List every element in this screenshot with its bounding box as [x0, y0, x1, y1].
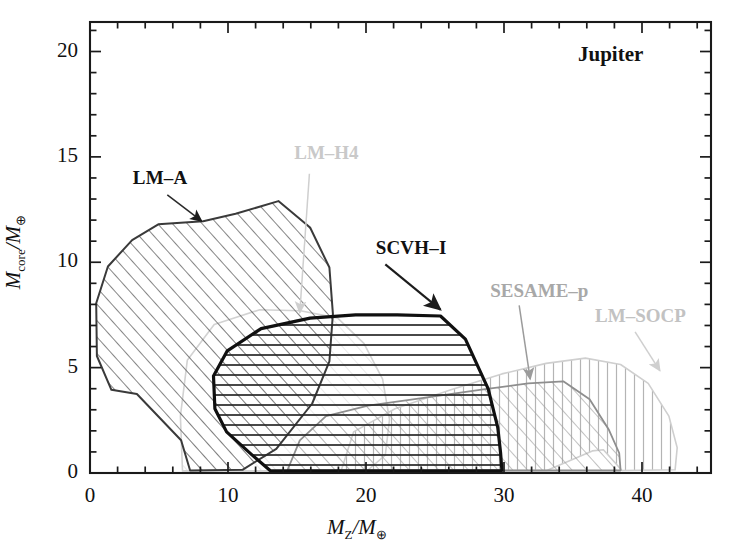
x-tick-label-10: 10: [198, 483, 258, 508]
y-tick-label-15: 15: [22, 143, 78, 168]
region-scvh-i: [214, 315, 502, 471]
arrow-lm-socp: [635, 332, 660, 371]
corner-label-jupiter: Jupiter: [578, 42, 643, 67]
x-tick-label-20: 20: [336, 483, 396, 508]
arrow-lm-a: [167, 195, 202, 221]
y-tick-label-10: 10: [22, 248, 78, 273]
series-label-lm-socp: LM–SOCP: [595, 305, 686, 327]
x-axis-title: MZ/M⊕: [327, 515, 387, 543]
series-label-lm-a: LM–A: [133, 167, 188, 189]
y-tick-label-20: 20: [22, 38, 78, 63]
figure-root: 01020304005101520 LM–ALM–H4SCVH–ISESAME–…: [0, 0, 735, 557]
chart-canvas: [0, 0, 735, 557]
x-tick-label-40: 40: [612, 483, 672, 508]
y-axis-title: Mcore/M⊕: [1, 215, 29, 289]
series-label-sesame-p: SESAME–p: [490, 280, 588, 302]
series-label-scvh-i: SCVH–I: [376, 237, 447, 259]
y-tick-label-5: 5: [22, 354, 78, 379]
arrow-scvh-i: [385, 264, 440, 309]
x-tick-label-30: 30: [474, 483, 534, 508]
x-tick-label-0: 0: [60, 483, 120, 508]
y-tick-label-0: 0: [22, 459, 78, 484]
series-label-lm-h4: LM–H4: [294, 142, 358, 164]
